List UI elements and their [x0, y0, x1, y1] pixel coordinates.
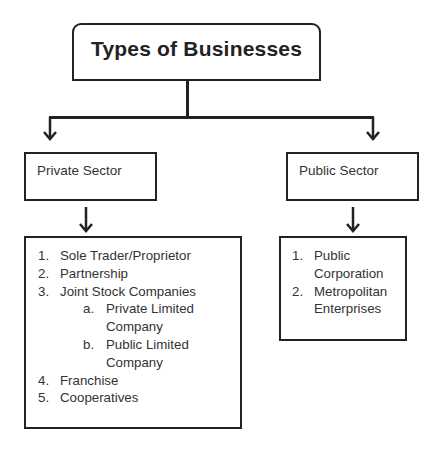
list-number: 2.: [38, 265, 49, 283]
list-number: 1.: [292, 247, 303, 265]
list-item-text: Company: [106, 355, 163, 370]
public-sector-list: 1.PublicCorporation 2.MetropolitanEnterp…: [292, 247, 387, 318]
arrow-down-icon: [43, 117, 57, 142]
arrow-down-icon: [79, 207, 93, 234]
list-item-text: Sole Trader/Proprietor: [60, 248, 191, 263]
list-item-text: Metropolitan: [314, 284, 387, 299]
list-item-text: Corporation: [314, 266, 383, 281]
list-subitem: a.Private LimitedCompany: [38, 300, 196, 336]
title-box: Types of Businesses: [72, 23, 321, 81]
list-item-text: Private Limited: [106, 301, 194, 316]
list-item: 3.Joint Stock Companies: [38, 283, 196, 301]
list-item-text: Partnership: [60, 266, 128, 281]
list-item-text: Franchise: [60, 373, 118, 388]
list-number: 1.: [38, 247, 49, 265]
private-sector-box: Private Sector: [24, 152, 157, 201]
branch-horizontal-line: [49, 116, 374, 119]
public-sector-label: Public Sector: [299, 163, 379, 178]
list-letter: a.: [83, 300, 94, 318]
list-item-text: Joint Stock Companies: [60, 284, 196, 299]
list-number: 4.: [38, 372, 49, 390]
list-item: 1.PublicCorporation: [292, 247, 387, 283]
list-item-text: Enterprises: [314, 301, 381, 316]
list-number: 2.: [292, 283, 303, 301]
list-item: 1.Sole Trader/Proprietor: [38, 247, 196, 265]
list-subitem: b.Public LimitedCompany: [38, 336, 196, 372]
list-item: 2.MetropolitanEnterprises: [292, 283, 387, 319]
list-item-text: Public Limited: [106, 337, 189, 352]
list-letter: b.: [83, 336, 94, 354]
list-item: 2.Partnership: [38, 265, 196, 283]
list-number: 5.: [38, 389, 49, 407]
list-item: 4.Franchise: [38, 372, 196, 390]
private-sector-list-box: 1.Sole Trader/Proprietor 2.Partnership 3…: [24, 236, 242, 429]
list-item-text: Public: [314, 248, 350, 263]
list-item-text: Company: [106, 319, 163, 334]
diagram-title: Types of Businesses: [91, 37, 302, 61]
public-sector-box: Public Sector: [286, 152, 419, 201]
arrow-down-icon: [366, 117, 380, 142]
arrow-down-icon: [346, 207, 360, 234]
list-item-text: Cooperatives: [60, 390, 138, 405]
public-sector-list-box: 1.PublicCorporation 2.MetropolitanEnterp…: [279, 236, 407, 341]
private-sector-label: Private Sector: [37, 163, 122, 178]
private-sector-list: 1.Sole Trader/Proprietor 2.Partnership 3…: [38, 247, 196, 407]
list-item: 5.Cooperatives: [38, 389, 196, 407]
title-stem-line: [186, 81, 189, 118]
list-number: 3.: [38, 283, 49, 301]
